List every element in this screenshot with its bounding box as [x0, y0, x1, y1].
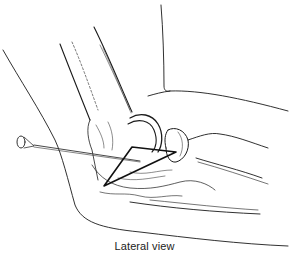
torso-outline [148, 5, 288, 111]
figure-caption: Lateral view [0, 240, 289, 252]
elbow-line-drawing [0, 0, 289, 263]
radial-head [165, 128, 188, 162]
elbow-illustration: Lateral view [0, 0, 289, 263]
landmark-triangle [104, 147, 176, 186]
needle [17, 136, 140, 162]
forearm [92, 133, 268, 214]
